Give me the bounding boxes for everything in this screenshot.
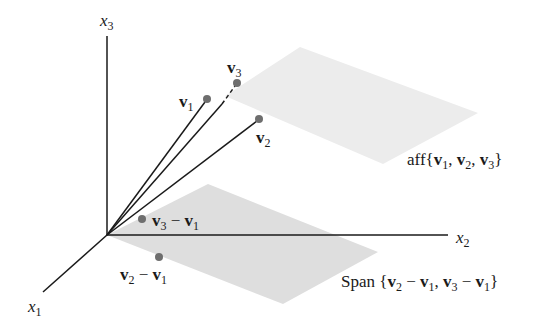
x2-axis-label: x2 [456, 229, 470, 246]
v3-minus-v1-label: v3 − v1 [152, 212, 199, 229]
span-plane-label: Span {v2 − v1, v3 − v1} [341, 273, 498, 290]
v3-point [233, 79, 241, 87]
x3-axis-label: x3 [100, 12, 114, 29]
v2-point [255, 115, 263, 123]
v2-minus-v1-point [155, 253, 163, 261]
span-plane [107, 184, 378, 304]
aff-plane-label: aff{v1, v2, v3} [407, 151, 502, 168]
v2-label: v2 [256, 129, 271, 146]
v2-minus-v1-label: v2 − v1 [120, 266, 167, 283]
v1-label: v1 [179, 93, 194, 110]
v1-point [203, 95, 211, 103]
x1-axis-label: x1 [28, 298, 42, 315]
x1-axis [43, 235, 107, 292]
v3-minus-v1-point [138, 215, 146, 223]
v3-label: v3 [227, 59, 242, 76]
